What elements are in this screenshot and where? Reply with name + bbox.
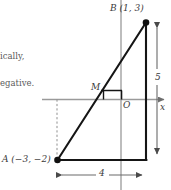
origin-label: O	[123, 101, 130, 110]
point-label-B: B (1, 3)	[110, 4, 144, 13]
point-label-A: A (−3, −2)	[2, 155, 51, 164]
point-label-M: M	[91, 83, 100, 92]
dimension-label-5: 5	[155, 73, 161, 82]
x-axis-label: x	[160, 103, 165, 112]
point-marker-B	[143, 19, 150, 26]
point-marker-A	[54, 157, 61, 164]
text-fragment-one: ically,	[0, 52, 24, 61]
dimension-label-4: 4	[99, 169, 105, 178]
text-fragment-two: egative.	[0, 79, 34, 88]
